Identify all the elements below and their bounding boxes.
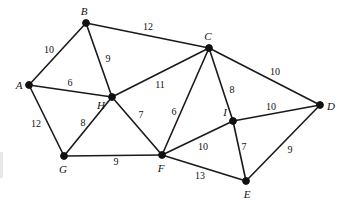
node-label-a: A bbox=[16, 80, 23, 91]
graph-canvas bbox=[0, 0, 343, 205]
graph-edge-a-b bbox=[29, 23, 86, 85]
node-label-h: H bbox=[97, 100, 105, 111]
graph-edge-h-f bbox=[112, 97, 162, 155]
edge-weight-c-f: 6 bbox=[172, 107, 177, 117]
edge-weight-c-i: 8 bbox=[230, 85, 235, 95]
graph-edge-c-f bbox=[162, 48, 209, 155]
graph-node-c bbox=[206, 45, 213, 52]
node-label-i: I bbox=[223, 107, 227, 118]
edge-weight-a-h: 6 bbox=[68, 78, 73, 88]
edge-weight-a-g: 12 bbox=[31, 119, 41, 129]
edge-weight-c-d: 10 bbox=[270, 67, 280, 77]
edge-weight-b-c: 12 bbox=[143, 22, 153, 32]
graph-node-e bbox=[243, 178, 250, 185]
weighted-graph-figure: 1012961289711681010107139ABCDEFGHI bbox=[0, 0, 343, 205]
node-label-g: G bbox=[59, 164, 67, 175]
edge-layer bbox=[29, 23, 320, 181]
edge-weight-a-b: 10 bbox=[44, 45, 54, 55]
node-label-d: D bbox=[327, 101, 335, 112]
node-label-e: E bbox=[244, 189, 251, 200]
edge-weight-b-h: 9 bbox=[106, 54, 111, 64]
node-label-f: F bbox=[158, 163, 165, 174]
graph-node-i bbox=[230, 118, 237, 125]
edge-weight-i-d: 10 bbox=[266, 102, 276, 112]
edge-weight-i-e: 7 bbox=[242, 142, 247, 152]
edge-weight-g-f: 9 bbox=[114, 157, 119, 167]
edge-weight-h-f: 7 bbox=[139, 110, 144, 120]
graph-node-h bbox=[109, 94, 116, 101]
graph-node-g bbox=[61, 153, 68, 160]
edge-weight-f-e: 13 bbox=[195, 171, 205, 181]
graph-node-a bbox=[26, 82, 33, 89]
edge-weight-i-f: 10 bbox=[198, 142, 208, 152]
scan-artifact bbox=[0, 152, 3, 178]
node-label-c: C bbox=[204, 31, 211, 42]
edge-weight-e-d: 9 bbox=[288, 145, 293, 155]
graph-node-f bbox=[159, 152, 166, 159]
edge-weight-g-h: 8 bbox=[81, 118, 86, 128]
edge-weight-h-c: 11 bbox=[155, 80, 165, 90]
graph-node-d bbox=[317, 102, 324, 109]
node-label-b: B bbox=[81, 6, 88, 17]
graph-node-b bbox=[83, 20, 90, 27]
